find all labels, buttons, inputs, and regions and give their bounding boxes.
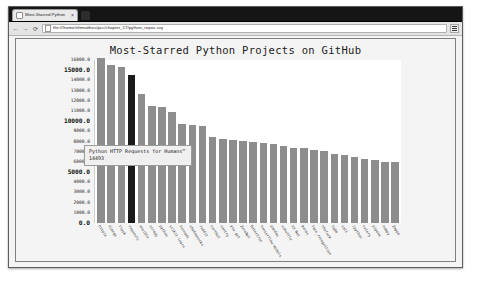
chart-title: Most-Starred Python Projects on GitHub <box>16 44 455 56</box>
bar[interactable] <box>391 162 399 223</box>
back-icon[interactable]: ← <box>12 25 19 32</box>
x-label-slot: celery <box>359 223 369 267</box>
menu-icon[interactable] <box>450 24 459 33</box>
y-axis-tick: 12000.0 <box>71 98 90 103</box>
bar[interactable] <box>351 157 359 223</box>
x-label-slot: pandas <box>267 223 277 267</box>
bar-slot <box>228 60 238 223</box>
bar[interactable] <box>270 144 278 223</box>
bar-slot <box>329 60 339 223</box>
bar-slot <box>339 60 349 223</box>
x-label-slot: Detectron <box>247 223 257 267</box>
x-axis: httpiedjangoflaskrequestsansiblescrapypy… <box>94 223 400 267</box>
bar[interactable] <box>178 124 186 223</box>
bar-slot <box>238 60 248 223</box>
bar-slot <box>258 60 268 223</box>
bar[interactable] <box>300 148 308 223</box>
bar[interactable] <box>331 154 339 223</box>
x-label-slot: ZeroNet <box>237 223 247 267</box>
y-axis-tick: 1000.0 <box>73 211 90 216</box>
bar-slot <box>116 60 126 223</box>
favicon-icon <box>16 12 23 19</box>
tab-title: Most-Starred Python <box>25 13 69 17</box>
bar-slot <box>360 60 370 223</box>
browser-titlebar: Most-Starred Python × <box>9 7 462 22</box>
x-label-slot: sentry <box>217 223 227 267</box>
new-tab-button[interactable] <box>81 11 90 20</box>
bar-slot <box>289 60 299 223</box>
browser-window: Most-Starred Python × ← → ⟳ file:///home… <box>8 6 463 268</box>
bar-slot <box>390 60 400 223</box>
bar-slot <box>268 60 278 223</box>
chart-tooltip: Python HTTP Requests for Humans™ 14493 <box>84 145 192 166</box>
bar[interactable] <box>189 125 197 223</box>
y-axis-tick: 0.0 <box>79 220 90 226</box>
forward-icon[interactable]: → <box>22 25 29 32</box>
y-axis-tick: 16000.0 <box>71 58 90 63</box>
bar-slot <box>279 60 289 223</box>
reload-icon[interactable]: ⟳ <box>32 25 39 32</box>
bar-slot <box>370 60 380 223</box>
bar-slot <box>218 60 228 223</box>
bar-series <box>95 60 401 223</box>
bar-slot <box>126 60 136 223</box>
y-axis-tick: 10000.0 <box>64 118 90 124</box>
bar[interactable] <box>239 141 247 223</box>
bar[interactable] <box>320 151 328 223</box>
y-axis-tick: 8000.0 <box>73 139 90 144</box>
bar[interactable] <box>290 148 298 223</box>
bar[interactable] <box>199 126 207 223</box>
y-axis-tick: 13000.0 <box>71 88 90 93</box>
bar[interactable] <box>107 65 115 223</box>
y-axis-tick: 2000.0 <box>73 200 90 205</box>
x-label-slot: scrapy <box>146 223 156 267</box>
bar-slot <box>167 60 177 223</box>
bar-slot <box>147 60 157 223</box>
bar[interactable] <box>260 143 268 224</box>
x-axis-label: Zappa <box>391 225 400 236</box>
bar[interactable] <box>219 139 227 223</box>
x-label-slot: XX-Net <box>288 223 298 267</box>
bar[interactable] <box>371 160 379 223</box>
bar-slot <box>157 60 167 223</box>
bar-slot <box>309 60 319 223</box>
y-axis-tick: 9000.0 <box>73 129 90 134</box>
x-label-slot: django <box>105 223 115 267</box>
x-label-slot: certbot <box>207 223 217 267</box>
bar[interactable] <box>280 146 288 223</box>
x-label-slot: ansible <box>136 223 146 267</box>
x-label-slot: you-get <box>227 223 237 267</box>
bar[interactable] <box>381 162 389 223</box>
bar[interactable] <box>310 150 318 223</box>
bar[interactable] <box>249 142 257 223</box>
bar[interactable] <box>341 155 349 223</box>
desktop-background: Most-Starred Python × ← → ⟳ file:///home… <box>0 0 478 281</box>
x-axis-label: salt <box>340 225 348 234</box>
bar[interactable] <box>209 137 217 223</box>
bar-slot <box>137 60 147 223</box>
y-axis-tick: 3000.0 <box>73 190 90 195</box>
bar[interactable] <box>97 58 105 223</box>
bar-slot <box>96 60 106 223</box>
x-label-slot: scikit-learn <box>166 223 176 267</box>
y-axis-tick: 11000.0 <box>71 109 90 114</box>
x-label-slot: numpy <box>379 223 389 267</box>
x-label-slot: Zappa <box>389 223 399 267</box>
x-label-slot: shadowsocks <box>186 223 196 267</box>
browser-tab[interactable]: Most-Starred Python × <box>12 9 78 21</box>
bar[interactable] <box>361 159 369 223</box>
y-axis-tick: 14000.0 <box>71 78 90 83</box>
x-axis-label: tqdm <box>330 225 338 234</box>
y-axis: 0.01000.02000.03000.04000.05000.06000.07… <box>16 60 94 223</box>
x-label-slot: tensorflow-models <box>257 223 267 267</box>
bar-slot <box>248 60 258 223</box>
bar-slot <box>106 60 116 223</box>
close-icon[interactable]: × <box>71 13 74 18</box>
browser-toolbar: ← → ⟳ file:///home/ehmatthes/pcc/chapter… <box>9 22 462 36</box>
bar[interactable] <box>168 112 176 224</box>
x-label-slot: python <box>156 223 166 267</box>
bar-slot <box>299 60 309 223</box>
x-label-slot: tqdm <box>328 223 338 267</box>
address-bar[interactable]: file:///home/ehmatthes/pcc/chapter_17/py… <box>42 24 447 33</box>
bar[interactable] <box>229 140 237 223</box>
